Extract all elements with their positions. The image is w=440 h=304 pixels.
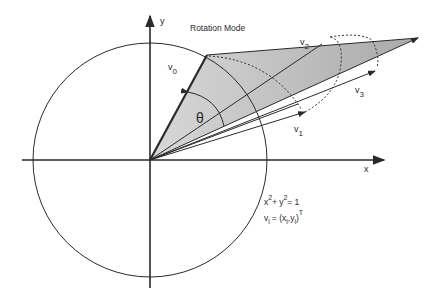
- vector-definition: vi= (xi,yi)T: [264, 209, 304, 225]
- theta-label: θ: [196, 110, 204, 126]
- v3-label: v3: [355, 85, 365, 99]
- y-axis-label: y: [160, 16, 165, 26]
- v0-label: v0: [168, 62, 178, 76]
- x-axis-label: x: [364, 164, 369, 174]
- diagram-title: Rotation Mode: [190, 23, 246, 33]
- v1-label: v1: [294, 124, 304, 138]
- rotation-diagram: Rotation Mode y x θ v0 v1 v2 v3 x2+y2= 1…: [0, 0, 440, 304]
- circle-equation: x2+y2= 1: [264, 194, 300, 207]
